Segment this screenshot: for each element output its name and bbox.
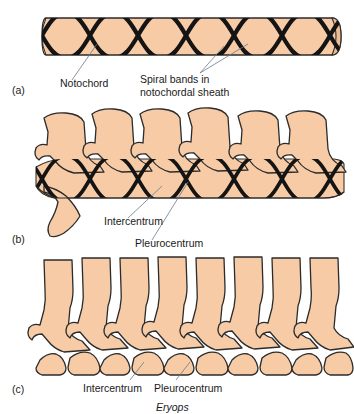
centrum bbox=[100, 354, 130, 375]
centrum bbox=[260, 352, 292, 375]
vertebra-arch bbox=[142, 257, 204, 349]
label-intercentrum-c: Intercentrum bbox=[83, 382, 142, 394]
label-spiral-bands-line2: notochordal sheath bbox=[140, 86, 229, 98]
centrum bbox=[68, 352, 100, 375]
centrum bbox=[228, 354, 258, 375]
panel-letter-c: (c) bbox=[12, 383, 24, 395]
genus-caption: Eryops bbox=[156, 401, 189, 413]
neural-arches-c bbox=[28, 257, 354, 352]
centrum bbox=[164, 354, 194, 375]
label-intercentrum-b: Intercentrum bbox=[104, 215, 163, 227]
vertebra-arch bbox=[218, 257, 280, 349]
panel-a: Notochord Spiral bands in notochordal sh… bbox=[12, 13, 354, 98]
label-pleurocentrum-b: Pleurocentrum bbox=[135, 237, 204, 249]
panel-letter-b: (b) bbox=[12, 233, 25, 245]
label-pleurocentrum-c: Pleurocentrum bbox=[154, 382, 223, 394]
panel-c: Intercentrum Pleurocentrum (c) bbox=[12, 257, 354, 395]
centra-row-c bbox=[36, 352, 353, 375]
centrum bbox=[196, 352, 228, 375]
centrum bbox=[324, 352, 353, 375]
centrum bbox=[292, 354, 322, 375]
label-spiral-bands-line1: Spiral bands in bbox=[140, 73, 210, 85]
vertebra-arch bbox=[28, 260, 90, 352]
centrum bbox=[36, 354, 66, 375]
vertebra-arch bbox=[66, 258, 128, 350]
label-notochord: Notochord bbox=[60, 77, 109, 89]
panel-letter-a: (a) bbox=[12, 84, 25, 96]
panel-b: Intercentrum Pleurocentrum (b) bbox=[12, 108, 354, 249]
figure-root: Notochord Spiral bands in notochordal sh… bbox=[0, 0, 354, 414]
eryops-vertebrae-figure: Notochord Spiral bands in notochordal sh… bbox=[0, 0, 354, 414]
